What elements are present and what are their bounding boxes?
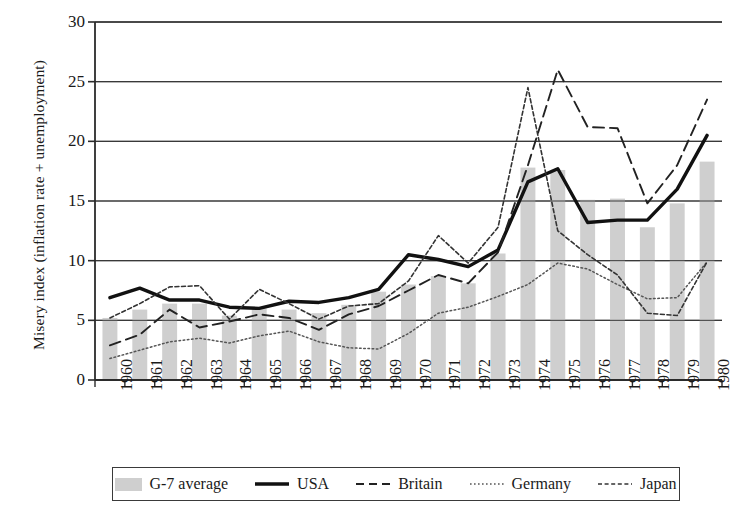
legend-line-swatch-icon xyxy=(469,478,505,490)
bar xyxy=(610,199,625,380)
legend-item-japan: Japan xyxy=(584,475,689,493)
x-tick-label: 1978 xyxy=(655,359,673,391)
x-tick-label: 1964 xyxy=(237,359,255,391)
x-tick-label: 1976 xyxy=(596,359,614,391)
bar xyxy=(520,168,535,380)
x-tick-label: 1960 xyxy=(118,359,136,391)
x-tick-label: 1970 xyxy=(417,359,435,391)
bar xyxy=(580,200,595,380)
x-tick-label: 1974 xyxy=(536,359,554,391)
y-tick-label: 5 xyxy=(37,311,85,328)
legend-label: USA xyxy=(297,475,329,493)
bar xyxy=(640,227,655,380)
legend-label: G-7 average xyxy=(149,475,228,493)
x-tick-label: 1980 xyxy=(715,359,733,391)
legend-label: Germany xyxy=(512,475,572,493)
x-tick-label: 1979 xyxy=(685,359,703,391)
legend-item-usa: USA xyxy=(241,475,342,493)
x-tick-label: 1961 xyxy=(148,359,166,391)
x-tick-label: 1965 xyxy=(267,359,285,391)
y-tick-label: 30 xyxy=(37,13,85,30)
legend-label: Japan xyxy=(640,475,676,493)
legend-line-swatch-icon xyxy=(597,478,633,490)
plot-area xyxy=(0,0,741,522)
chart-legend: G-7 averageUSABritainGermanyJapan xyxy=(112,467,680,501)
y-tick-label: 20 xyxy=(37,132,85,149)
y-tick-label: 10 xyxy=(37,252,85,269)
x-tick-label: 1977 xyxy=(626,359,644,391)
y-tick-label: 15 xyxy=(37,192,85,209)
x-tick-label: 1968 xyxy=(357,359,375,391)
misery-index-chart: Misery index (inflation rate + unemploym… xyxy=(0,0,741,522)
legend-item-britain: Britain xyxy=(342,475,455,493)
legend-item-g-7-average: G-7 average xyxy=(102,475,241,493)
legend-line-swatch-icon xyxy=(355,478,391,490)
x-tick-label: 1969 xyxy=(387,359,405,391)
x-tick-label: 1963 xyxy=(208,359,226,391)
legend-bar-swatch-icon xyxy=(115,478,142,491)
x-tick-label: 1971 xyxy=(446,359,464,391)
x-tick-label: 1973 xyxy=(506,359,524,391)
x-tick-label: 1962 xyxy=(178,359,196,391)
x-tick-label: 1972 xyxy=(476,359,494,391)
y-tick-label: 25 xyxy=(37,73,85,90)
x-tick-label: 1966 xyxy=(297,359,315,391)
legend-line-swatch-icon xyxy=(254,478,290,490)
legend-label: Britain xyxy=(398,475,442,493)
x-tick-label: 1975 xyxy=(566,359,584,391)
x-tick-label: 1967 xyxy=(327,359,345,391)
bar xyxy=(102,318,117,380)
legend-item-germany: Germany xyxy=(456,475,585,493)
y-tick-label: 0 xyxy=(37,371,85,388)
